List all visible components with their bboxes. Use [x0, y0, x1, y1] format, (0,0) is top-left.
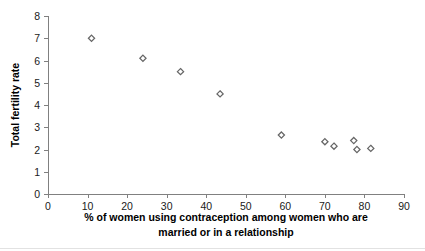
data-point-marker [351, 138, 357, 144]
y-tick-label: 6 [34, 55, 40, 67]
y-axis-title: Total fertility rate [9, 63, 21, 148]
y-tick-label: 7 [34, 32, 40, 44]
x-axis: 0102030405060708090 % of women using con… [45, 194, 410, 238]
data-point-marker [140, 55, 146, 61]
x-tick-label: 90 [398, 200, 410, 212]
y-tick-label: 3 [34, 121, 40, 133]
y-axis: 012345678 Total fertility rate [9, 10, 49, 200]
chart-canvas: 012345678 Total fertility rate 010203040… [0, 0, 425, 251]
y-tick-label: 0 [34, 188, 40, 200]
y-tick-label: 2 [34, 144, 40, 156]
data-point-marker [322, 139, 328, 145]
y-tick-label: 1 [34, 166, 40, 178]
data-point-group [88, 35, 373, 152]
data-point-marker [278, 132, 284, 138]
y-tick-label: 8 [34, 10, 40, 22]
data-point-marker [331, 143, 337, 149]
data-point-marker [177, 69, 183, 75]
x-axis-title-line1: % of women using contraception among wom… [84, 211, 368, 223]
scatter-chart: 012345678 Total fertility rate 010203040… [0, 0, 425, 251]
data-point-marker [354, 146, 360, 152]
y-tick-label: 4 [34, 99, 40, 111]
x-tick-group: 0102030405060708090 [45, 194, 410, 212]
y-tick-group: 012345678 [34, 10, 48, 200]
x-axis-title-line2: married or in a relationship [158, 226, 293, 238]
plot-area [88, 35, 373, 152]
data-point-marker [217, 91, 223, 97]
data-point-marker [88, 35, 94, 41]
x-tick-label: 0 [45, 200, 51, 212]
y-tick-label: 5 [34, 77, 40, 89]
data-point-marker [368, 145, 374, 151]
